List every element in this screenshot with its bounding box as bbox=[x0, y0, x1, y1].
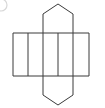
bottom-pentagon-fill bbox=[43, 76, 73, 105]
net-diagram-canvas bbox=[0, 0, 105, 108]
top-pentagon-fill bbox=[43, 4, 73, 33]
rectangle-strip-fill bbox=[13, 33, 89, 76]
net-diagram-svg bbox=[0, 0, 105, 108]
corner-circle-icon bbox=[0, 0, 7, 11]
